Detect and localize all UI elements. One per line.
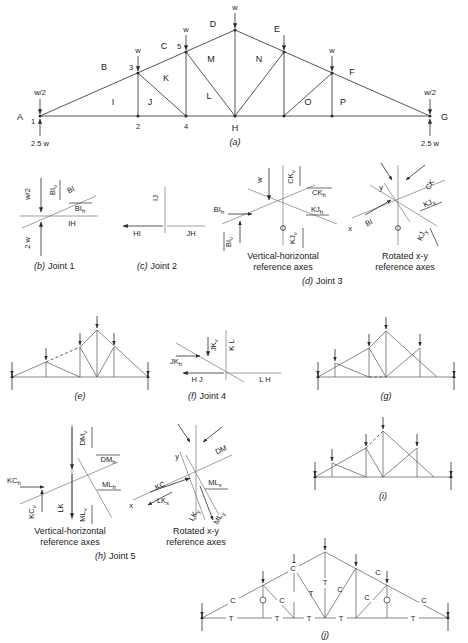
panel-h-left-subcaption-1: Vertical-horizontal xyxy=(34,526,106,536)
panel-d-left-subcaption-1: Vertical-horizontal xyxy=(247,251,319,261)
panel-b-joint1: w/2 2 w BIv BI BIh IH (b)Joint 1 xyxy=(20,178,98,271)
panel-f-lh-label: L H xyxy=(259,375,270,384)
panel-d-right-axis-x: x xyxy=(348,224,352,233)
panel-c-hi-label: HI xyxy=(133,229,141,238)
panel-h-right-axis-y: y xyxy=(175,452,179,461)
truss-member-I: I xyxy=(112,97,115,107)
panel-f-caption: (f)Joint 4 xyxy=(188,391,226,401)
panel-j-caption: (j) xyxy=(321,630,329,640)
truss-joint-5: 5 xyxy=(177,42,181,51)
truss-member-H: H xyxy=(232,123,239,133)
panel-d-left-joint3: w CKv CKh KJh KJv BIh BIv Vertical-horiz… xyxy=(214,165,337,272)
panel-h-right-dm-label: DM xyxy=(214,443,228,456)
panel-d-left-load-label: w xyxy=(255,177,264,184)
panel-h-right-axis-x: x xyxy=(129,501,133,510)
panel-d-right-kj-y-label: KJy xyxy=(415,228,429,243)
panel-h-right-subcaption-2: reference axes xyxy=(166,537,226,547)
panel-j-bottom-force-2: T xyxy=(275,614,280,623)
panel-h-left-lk-label: LK xyxy=(56,503,65,512)
panel-d-left-bi-v-label: BIv xyxy=(224,237,234,247)
panel-f-jk-v-label: JKv xyxy=(209,339,219,351)
panel-d-right-subcaption-2: reference axes xyxy=(375,262,435,272)
panel-h-right-joint5: x y KC DM LKx LKy MLx MLy Rotated x-y re… xyxy=(95,424,232,561)
panel-i-truss: (i) xyxy=(315,417,451,501)
panel-h-left-ml-h-label: MLh xyxy=(102,480,116,490)
truss-joint-4: 4 xyxy=(184,122,188,131)
panel-f-joint4: JKv JKh K L H J L H (f)Joint 4 xyxy=(170,330,281,401)
panel-d-left-ck-v-label: CKv xyxy=(286,170,296,183)
figure-svg: A G 1 2 3 4 5 B C D E F H I J K L M N O … xyxy=(0,0,468,643)
panel-g-caption: (g) xyxy=(381,391,392,401)
panel-b-caption: (b)Joint 1 xyxy=(34,261,75,271)
truss-member-P: P xyxy=(340,97,346,107)
panel-h-left-joint5: DMv DMh KCh KCv LK MLh MLv Vertical-hori… xyxy=(7,425,121,547)
panel-j-web-force-3: C xyxy=(337,585,343,594)
panel-j-web-force-5: C xyxy=(364,593,370,602)
reaction-label-left: 2.5 w xyxy=(31,139,50,148)
truss-member-N: N xyxy=(256,54,263,64)
panel-d-left-ck-h-label: CKh xyxy=(312,188,326,198)
load-label-w-5: w xyxy=(182,25,189,34)
truss-member-D: D xyxy=(210,19,217,29)
panel-b-load-label: w/2 xyxy=(23,188,32,201)
truss-member-J: J xyxy=(148,97,153,107)
truss-joint-3: 3 xyxy=(129,63,133,72)
panel-j-top-force-4: C xyxy=(421,596,427,605)
load-label-half-right: w/2 xyxy=(423,88,436,97)
panel-j-top-force-1: C xyxy=(230,596,236,605)
truss-member-O: O xyxy=(304,97,311,107)
truss-member-F: F xyxy=(349,67,355,77)
panel-d-left-bi-h-label: BIh xyxy=(214,205,224,215)
panel-b-bi-label: BI xyxy=(66,184,76,195)
panel-j-bottom-force-1: T xyxy=(229,614,234,623)
panel-b-bi-v-label: BIv xyxy=(48,185,58,195)
panel-j-web-force-2: T xyxy=(309,589,314,598)
panel-a-caption: (a) xyxy=(230,137,241,147)
truss-member-K: K xyxy=(163,73,169,83)
truss-joint-2: 2 xyxy=(136,122,140,131)
panel-j-bottom-force-5: T xyxy=(411,614,416,623)
panel-c-caption: (c)Joint 2 xyxy=(137,261,177,271)
panel-h-left-subcaption-2: reference axes xyxy=(40,537,100,547)
panel-d-right-kj-x-label: KJx xyxy=(422,196,437,210)
panel-j-zero-force-2 xyxy=(384,597,390,603)
truss-node-G: G xyxy=(441,112,448,122)
panel-b-bi-h-label: BIh xyxy=(75,204,85,214)
panel-h-right-subcaption-1: Rotated x-y xyxy=(173,526,220,536)
panel-g-truss: (g) xyxy=(318,317,454,401)
panel-h-left-dm-v-label: DMv xyxy=(78,431,88,446)
panel-j-top-force-2: C xyxy=(290,564,296,573)
panel-h-left-kc-h-label: KCh xyxy=(7,476,21,486)
panel-j-truss: T T T T T C C C C C T C T C (j) xyxy=(202,538,448,640)
load-label-w-2: w xyxy=(134,46,141,55)
panel-h-left-kc-v-label: KCv xyxy=(27,505,37,518)
panel-f-kl-label: K L xyxy=(227,339,236,350)
panel-j-web-force-1: C xyxy=(279,596,285,605)
panel-f-jk-h-label: JKh xyxy=(170,357,182,367)
panel-d-right-bi-label: BI xyxy=(364,217,374,228)
figure-root: A G 1 2 3 4 5 B C D E F H I J K L M N O … xyxy=(0,0,468,643)
panel-h-caption: (h)Joint 5 xyxy=(95,551,136,561)
panel-d-caption: (d)Joint 3 xyxy=(302,276,343,286)
panel-b-ih-label: IH xyxy=(68,219,76,228)
panel-d-left-subcaption-2: reference axes xyxy=(253,262,313,272)
truss-member-B: B xyxy=(101,62,107,72)
panel-b-reaction-label: 2 w xyxy=(23,237,32,249)
panel-d-right-ck-label: CK xyxy=(423,178,436,192)
panel-d-right-joint3: x y BI CK KJx KJy Rotated x-y reference … xyxy=(302,163,445,286)
panel-c-ij-label: IJ xyxy=(151,195,160,201)
truss-member-L: L xyxy=(206,91,211,101)
load-label-half-left: w/2 xyxy=(33,88,46,97)
panel-h-left-dm-h-label: DMh xyxy=(100,455,115,465)
panel-h-left-ml-v-label: MLv xyxy=(78,508,88,521)
panel-h-right-ml-y-label: MLy xyxy=(212,510,227,526)
panel-j-web-force-4: T xyxy=(323,578,328,587)
panel-c-joint2: IJ HI JH (c)Joint 2 xyxy=(123,187,205,271)
panel-h-right-kc-label: KC xyxy=(153,479,167,492)
load-label-w-right: w xyxy=(328,46,335,55)
truss-node-A: A xyxy=(17,112,23,122)
panel-d-right-axis-y: y xyxy=(379,183,383,192)
truss-member-M: M xyxy=(207,54,215,64)
load-label-w-apex: w xyxy=(231,3,238,12)
panel-j-bottom-force-3: T xyxy=(307,614,312,623)
